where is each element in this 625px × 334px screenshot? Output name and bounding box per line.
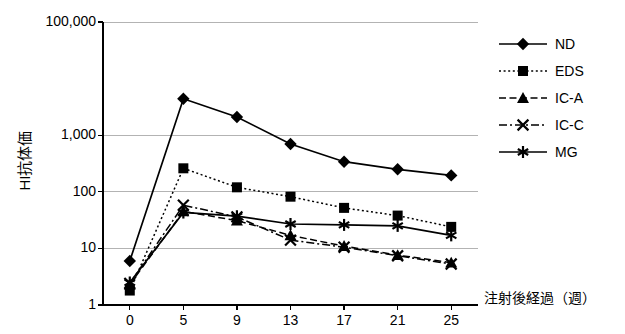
data-point-marker xyxy=(339,203,349,213)
legend-label: MG xyxy=(555,144,578,160)
data-point-marker xyxy=(124,255,136,267)
chart-container: HI抗体価 100,0001,000100101 05913172125 注射後… xyxy=(0,0,625,334)
legend-label: EDS xyxy=(555,63,584,79)
data-point-marker xyxy=(178,163,188,173)
legend-label: ND xyxy=(555,36,575,52)
data-point-marker xyxy=(284,138,296,150)
data-point-marker xyxy=(231,111,243,123)
legend-swatch xyxy=(497,87,549,109)
data-series-ic-c xyxy=(124,200,456,289)
data-point-marker xyxy=(391,163,403,175)
legend-marker xyxy=(517,37,529,49)
x-axis-tick-label: 25 xyxy=(443,312,459,328)
legend-marker xyxy=(518,66,528,76)
legend-item-nd[interactable]: ND xyxy=(497,30,621,57)
x-axis-tick-label: 5 xyxy=(179,312,187,328)
legend-item-eds[interactable]: EDS xyxy=(497,57,621,84)
data-series-mg xyxy=(125,207,457,289)
legend-item-mg[interactable]: MG xyxy=(497,138,621,165)
data-point-marker xyxy=(338,156,350,168)
x-axis-tick-label: 13 xyxy=(283,312,299,328)
data-point-marker xyxy=(177,93,189,105)
axis-lines xyxy=(98,22,478,310)
legend-item-ic-a[interactable]: IC-A xyxy=(497,84,621,111)
x-axis-title: 注射後経過（週） xyxy=(484,287,596,307)
legend-swatch xyxy=(497,60,549,82)
x-axis-tick-label: 17 xyxy=(336,312,352,328)
x-axis-tick-label: 9 xyxy=(233,312,241,328)
x-axis-tick-label: 0 xyxy=(126,312,134,328)
x-axis-tick-label: 21 xyxy=(390,312,406,328)
legend-swatch xyxy=(497,114,549,136)
data-point-marker xyxy=(286,192,296,202)
legend-swatch xyxy=(497,141,549,163)
data-series-layer xyxy=(124,93,458,296)
legend-item-ic-c[interactable]: IC-C xyxy=(497,111,621,138)
legend-label: IC-A xyxy=(555,90,583,106)
data-point-marker xyxy=(393,211,403,221)
gridlines xyxy=(103,22,478,305)
legend-marker xyxy=(517,92,529,103)
chart-legend: NDEDSIC-AIC-CMG xyxy=(497,30,621,165)
data-point-marker xyxy=(232,182,242,192)
legend-swatch xyxy=(497,33,549,55)
x-axis-tick-labels: 05913172125 xyxy=(103,312,478,334)
legend-label: IC-C xyxy=(555,117,584,133)
data-point-marker xyxy=(445,169,457,181)
